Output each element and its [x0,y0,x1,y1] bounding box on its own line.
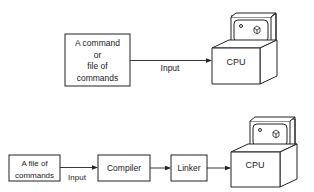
screen-dot-icon [259,129,262,132]
screen-dot-icon [240,25,243,28]
bottom-computer-icon [231,117,297,187]
bottom-cpu-label: CPU [245,160,264,170]
cube-icon [254,26,260,34]
compiler-box: Compiler [98,155,150,181]
top-source-line-4: commands [77,73,119,83]
cube-icon [273,130,279,138]
linker-label: Linker [177,163,200,173]
top-source-box: A command or file of commands [65,34,130,86]
bottom-diagram: A file of commands Input Compiler Linker [9,117,297,187]
top-source-line-2: or [94,50,102,60]
top-diagram: A command or file of commands Input [65,13,277,86]
compiler-label: Compiler [107,163,141,173]
top-source-line-3: file of [87,61,108,71]
diagram-canvas: A command or file of commands Input [0,0,314,192]
bottom-source-line-2: commands [15,171,54,180]
bottom-input-label: Input [68,173,87,182]
top-computer-icon [212,13,277,84]
top-cpu-label: CPU [226,57,245,67]
monitor-screen [253,124,287,146]
bottom-source-box: A file of commands [9,155,60,181]
monitor-screen [234,20,268,42]
bottom-source-line-1: A file of [21,159,48,168]
top-source-line-1: A command [75,38,120,48]
top-input-label: Input [161,63,181,73]
linker-box: Linker [171,155,207,181]
